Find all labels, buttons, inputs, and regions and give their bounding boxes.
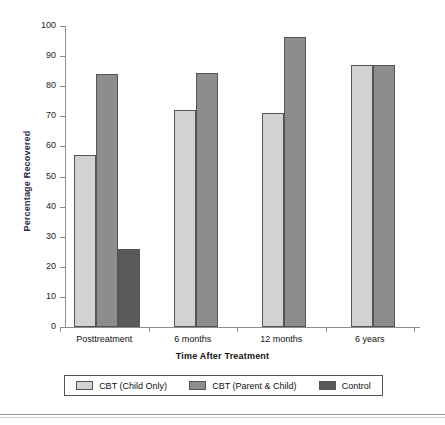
- legend-item: Control: [319, 381, 371, 391]
- y-axis-tick-label: 10: [4, 291, 56, 301]
- x-axis-title: Time After Treatment: [0, 351, 445, 361]
- bar: [118, 249, 140, 327]
- y-axis-tick-label: 70: [4, 110, 56, 120]
- y-axis-tick-label: 80: [4, 80, 56, 90]
- legend-swatch-icon: [319, 381, 336, 390]
- bar: [262, 113, 284, 327]
- x-axis-line: [60, 327, 420, 328]
- legend-label: CBT (Parent & Child): [212, 381, 296, 391]
- y-axis-tick-label: 100: [4, 20, 56, 30]
- bar-chart-figure: Percentage Recovered 0102030405060708090…: [0, 0, 445, 425]
- bar: [196, 73, 218, 327]
- x-axis-category-label: 12 months: [260, 334, 302, 344]
- plot-area: [66, 26, 420, 327]
- bar: [284, 37, 306, 327]
- x-axis-tick: [237, 327, 238, 332]
- bar: [373, 65, 395, 327]
- chart-legend: CBT (Child Only)CBT (Parent & Child)Cont…: [64, 375, 383, 396]
- x-axis-category-label: 6 months: [174, 334, 211, 344]
- x-axis-tick: [60, 327, 61, 332]
- legend-swatch-icon: [189, 381, 206, 390]
- y-axis-tick-label: 60: [4, 140, 56, 150]
- y-axis-tick-label: 40: [4, 201, 56, 211]
- y-axis-tick-label: 20: [4, 261, 56, 271]
- y-axis-tick-label: 90: [4, 50, 56, 60]
- bar: [74, 155, 96, 327]
- x-axis-tick: [326, 327, 327, 332]
- x-axis-category-label: 6 years: [355, 334, 385, 344]
- y-axis-tick-label: 0: [4, 321, 56, 331]
- footer-divider-secondary: [0, 417, 445, 418]
- legend-item: CBT (Child Only): [76, 381, 167, 391]
- x-axis-category-label: Posttreatment: [76, 334, 132, 344]
- bar: [351, 65, 373, 327]
- legend-label: Control: [342, 381, 371, 391]
- x-axis-tick: [414, 327, 415, 332]
- y-axis-tick-label: 50: [4, 171, 56, 181]
- bar: [96, 74, 118, 327]
- footer-divider: [0, 414, 445, 415]
- legend-label: CBT (Child Only): [99, 381, 167, 391]
- legend-item: CBT (Parent & Child): [189, 381, 296, 391]
- legend-swatch-icon: [76, 381, 93, 390]
- x-axis-tick: [149, 327, 150, 332]
- y-axis-tick-label: 30: [4, 231, 56, 241]
- bar: [174, 110, 196, 327]
